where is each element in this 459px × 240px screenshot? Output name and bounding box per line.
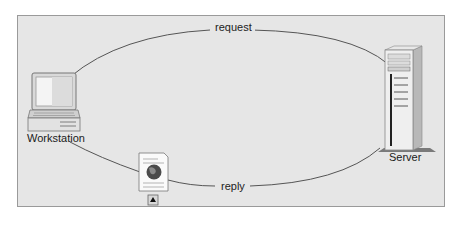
desktop-computer-icon	[28, 73, 80, 131]
tower-server-icon	[378, 46, 436, 152]
web-document-icon	[139, 153, 168, 205]
workstation-label: Workstation	[27, 132, 85, 144]
request-arrow	[70, 30, 388, 77]
reply-label: reply	[218, 180, 248, 192]
server-label: Server	[389, 151, 421, 163]
request-label: request	[212, 21, 255, 33]
